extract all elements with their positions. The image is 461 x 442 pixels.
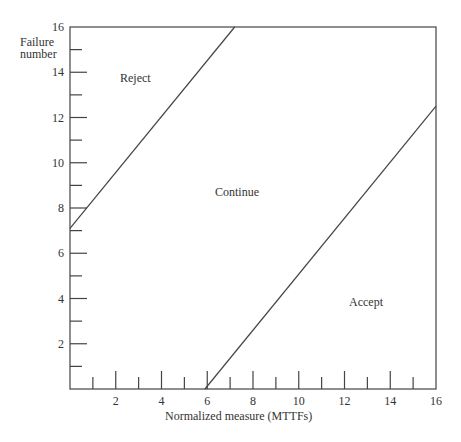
- x-tick-label: 6: [204, 394, 210, 408]
- region-label-accept: Accept: [349, 295, 384, 309]
- x-tick-label: 8: [250, 394, 256, 408]
- y-tick-label: 12: [52, 111, 64, 125]
- x-tick-label: 10: [293, 394, 305, 408]
- y-tick-label: 2: [58, 337, 64, 351]
- y-tick-label: 10: [52, 156, 64, 170]
- y-tick-label: 4: [58, 292, 64, 306]
- y-tick-label: 6: [58, 246, 64, 260]
- x-tick-label: 14: [384, 394, 396, 408]
- x-axis-label: Normalized measure (MTTFs): [165, 409, 312, 423]
- x-tick-label: 16: [430, 394, 442, 408]
- reject-boundary-line: [70, 27, 235, 228]
- x-tick-label: 4: [159, 394, 165, 408]
- region-label-reject: Reject: [120, 71, 151, 85]
- y-axis-label-line2: number: [20, 47, 57, 61]
- y-tick-label: 8: [58, 201, 64, 215]
- y-tick-label: 14: [52, 65, 64, 79]
- sequential-test-chart: 246810121416246810121416 Failure number …: [0, 0, 461, 442]
- region-label-continue: Continue: [215, 185, 259, 199]
- ticks: 246810121416246810121416: [52, 20, 442, 408]
- x-tick-label: 12: [339, 394, 351, 408]
- accept-boundary-line: [205, 106, 436, 389]
- x-tick-label: 2: [113, 394, 119, 408]
- y-tick-label: 16: [52, 20, 64, 34]
